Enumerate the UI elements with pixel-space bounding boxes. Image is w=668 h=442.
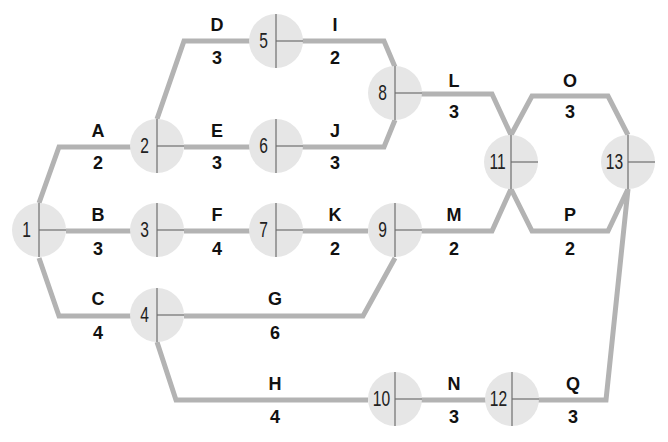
activity-duration: 3	[93, 239, 103, 259]
activity-name: I	[332, 15, 337, 35]
activity-arrow	[421, 94, 511, 135]
event-node-13: 13	[601, 135, 655, 189]
activity-name: E	[211, 121, 223, 141]
network-diagram: 12345678910111213 A2B3C4D3E3F4G6H4I2J3K2…	[0, 0, 668, 442]
activity-name: K	[329, 205, 342, 225]
event-node-4: 4	[130, 288, 184, 342]
activity-G	[184, 258, 395, 316]
activity-arrow	[421, 189, 511, 231]
activity-duration: 3	[565, 102, 575, 122]
activity-duration: 6	[270, 323, 280, 343]
activity-name: Q	[566, 374, 580, 394]
node-number: 1	[22, 218, 31, 242]
event-node-3: 3	[130, 203, 184, 257]
activity-H	[157, 342, 368, 400]
activity-duration: 4	[270, 407, 280, 427]
activity-L	[421, 94, 511, 135]
node-number: 10	[373, 387, 390, 411]
event-node-10: 10	[368, 372, 422, 426]
activity-J	[302, 120, 395, 147]
activity-D	[157, 41, 250, 119]
node-number: 9	[378, 218, 387, 242]
activity-arrow	[302, 41, 395, 67]
activity-duration: 2	[449, 239, 459, 259]
activity-duration: 3	[330, 153, 340, 173]
node-number: 8	[378, 81, 387, 105]
node-number: 4	[140, 303, 149, 327]
activity-name: O	[563, 71, 577, 91]
activity-duration: 2	[565, 239, 575, 259]
activity-arrow	[184, 258, 395, 316]
activity-I	[302, 41, 395, 67]
activity-name: M	[447, 205, 462, 225]
node-number: 12	[490, 387, 507, 411]
activity-duration: 2	[330, 239, 340, 259]
event-node-6: 6	[249, 119, 303, 173]
activity-M	[421, 189, 511, 231]
activity-name: A	[92, 121, 105, 141]
activity-name: L	[449, 71, 460, 91]
activity-duration: 3	[449, 102, 459, 122]
node-number: 2	[140, 134, 149, 158]
event-node-8: 8	[368, 66, 422, 120]
event-node-9: 9	[368, 203, 422, 257]
activity-name: B	[92, 205, 105, 225]
activity-C	[39, 258, 131, 316]
node-number: 3	[140, 218, 149, 242]
activity-name: C	[92, 289, 105, 309]
activity-arrow	[39, 258, 131, 316]
event-node-12: 12	[485, 372, 539, 426]
activity-name: J	[330, 121, 340, 141]
node-number: 13	[606, 150, 623, 174]
node-number: 6	[259, 134, 268, 158]
activity-name: H	[269, 374, 282, 394]
event-node-7: 7	[249, 203, 303, 257]
activity-arrow	[157, 41, 250, 119]
event-node-5: 5	[249, 14, 303, 68]
activity-name: D	[211, 15, 224, 35]
activity-duration: 3	[449, 407, 459, 427]
event-node-2: 2	[130, 119, 184, 173]
activity-arrow	[39, 147, 131, 203]
activity-name: F	[212, 205, 223, 225]
activity-duration: 3	[568, 407, 578, 427]
activity-duration: 4	[212, 239, 222, 259]
activity-A	[39, 147, 131, 203]
activity-duration: 2	[330, 48, 340, 68]
activity-name: N	[448, 374, 461, 394]
activity-name: G	[268, 289, 282, 309]
activity-name: P	[564, 205, 576, 225]
activity-duration: 3	[212, 153, 222, 173]
node-number: 11	[489, 150, 505, 174]
activity-arrow	[157, 342, 368, 400]
node-number: 5	[259, 29, 268, 53]
activity-arrow	[302, 120, 395, 147]
event-node-11: 11	[484, 135, 538, 189]
activity-duration: 4	[93, 323, 103, 343]
event-node-1: 1	[12, 203, 66, 257]
activity-duration: 3	[212, 48, 222, 68]
activity-duration: 2	[93, 153, 103, 173]
node-number: 7	[259, 218, 268, 242]
